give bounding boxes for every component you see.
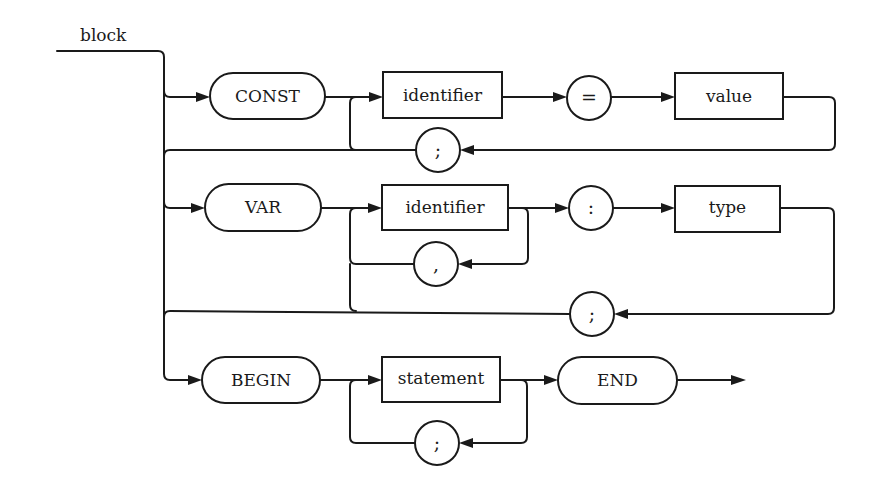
arrow-right-icon xyxy=(368,203,382,213)
end-keyword-node: END xyxy=(558,357,677,404)
svg-text:CONST: CONST xyxy=(235,86,300,106)
var-identifier-node: identifier xyxy=(382,185,508,230)
arrow-right-icon xyxy=(191,203,205,213)
statement-node: statement xyxy=(382,357,500,402)
svg-text:=: = xyxy=(581,86,597,108)
arrow-right-icon xyxy=(188,375,202,385)
const-semicolon-node: ; xyxy=(416,128,460,172)
svg-text:BEGIN: BEGIN xyxy=(231,370,291,390)
svg-text:,: , xyxy=(433,253,439,275)
var-type-node: type xyxy=(675,186,780,232)
svg-text:END: END xyxy=(597,370,638,390)
arrow-left-icon xyxy=(459,438,473,448)
arrow-left-icon xyxy=(614,309,628,319)
arrow-right-icon xyxy=(544,375,558,385)
svg-text:;: ; xyxy=(589,303,595,325)
svg-text::: : xyxy=(588,196,594,218)
arrow-right-icon xyxy=(661,203,675,213)
const-identifier-node: identifier xyxy=(383,72,502,118)
diagram-title: block xyxy=(80,25,127,45)
arrow-right-icon xyxy=(368,375,382,385)
var-keyword-node: VAR xyxy=(205,184,321,231)
svg-text:value: value xyxy=(705,86,752,106)
arrow-right-icon xyxy=(731,375,746,385)
arrow-right-icon xyxy=(661,92,675,102)
arrow-right-icon xyxy=(555,203,569,213)
arrow-right-icon xyxy=(196,92,210,102)
colon-symbol-node: : xyxy=(569,186,613,230)
svg-text:;: ; xyxy=(434,432,440,454)
arrow-left-icon xyxy=(458,259,472,269)
arrow-left-icon xyxy=(460,145,474,155)
var-semicolon-node: ; xyxy=(570,292,614,336)
const-section: CONST identifier = value ; xyxy=(210,72,783,172)
arrow-right-icon xyxy=(369,92,383,102)
arrow-right-icon xyxy=(553,92,567,102)
block-syntax-diagram: block xyxy=(0,0,880,489)
svg-text:statement: statement xyxy=(398,368,485,388)
svg-text:VAR: VAR xyxy=(244,197,282,217)
begin-keyword-node: BEGIN xyxy=(202,357,320,403)
svg-text:identifier: identifier xyxy=(403,85,483,105)
svg-text:;: ; xyxy=(435,139,441,161)
comma-symbol-node: , xyxy=(414,242,458,286)
begin-section: BEGIN statement ; END xyxy=(202,357,677,465)
const-value-node: value xyxy=(675,73,783,119)
svg-text:type: type xyxy=(709,197,746,217)
equals-symbol-node: = xyxy=(567,76,611,120)
svg-text:identifier: identifier xyxy=(405,197,485,217)
const-keyword-node: CONST xyxy=(210,73,325,119)
statement-semicolon-node: ; xyxy=(415,421,459,465)
